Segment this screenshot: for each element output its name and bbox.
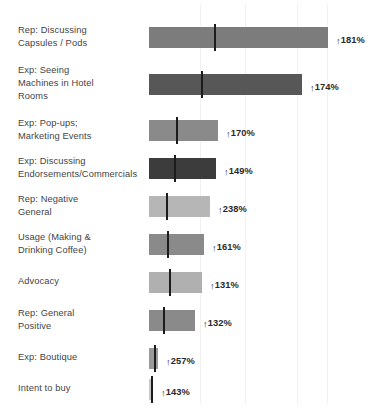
bar-group	[149, 234, 204, 255]
bar-marker	[174, 155, 176, 182]
bar-marker	[151, 376, 153, 403]
value-text: 181%	[341, 35, 365, 45]
up-arrow-icon: ↑	[161, 387, 166, 399]
chart-plot-area: Rep: Discussing Capsules / Pods↑181%Exp:…	[0, 0, 388, 410]
category-label: Exp: Discussing Endorsements/Commercials	[18, 155, 137, 181]
category-label: Rep: Discussing Capsules / Pods	[18, 24, 87, 50]
bar-marker	[167, 231, 169, 258]
bar-group	[149, 310, 195, 331]
value-label: ↑143%	[161, 386, 190, 398]
up-arrow-icon: ↑	[226, 128, 231, 140]
bar-group	[149, 272, 202, 293]
value-text: 170%	[231, 128, 255, 138]
value-text: 143%	[166, 387, 190, 397]
value-text: 257%	[171, 356, 195, 366]
value-text: 131%	[215, 280, 239, 290]
value-text: 174%	[315, 82, 339, 92]
bar	[149, 234, 204, 255]
value-label: ↑257%	[166, 355, 195, 367]
category-label: Intent to buy	[18, 382, 70, 395]
bar-group	[149, 158, 216, 179]
bar-marker	[176, 117, 178, 144]
value-label: ↑170%	[226, 127, 255, 139]
up-arrow-icon: ↑	[224, 166, 229, 178]
category-label: Rep: General Positive	[18, 307, 75, 333]
bar-marker	[163, 307, 165, 334]
bar-group	[149, 196, 210, 217]
value-text: 149%	[229, 166, 253, 176]
up-arrow-icon: ↑	[203, 318, 208, 330]
value-label: ↑174%	[310, 81, 339, 93]
value-text: 132%	[208, 318, 232, 328]
bar-marker	[201, 71, 203, 98]
bar-group	[149, 120, 218, 141]
bar-group	[149, 74, 302, 95]
up-arrow-icon: ↑	[212, 242, 217, 254]
bar-group	[149, 379, 153, 400]
category-label: Exp: Seeing Machines in Hotel Rooms	[18, 64, 94, 104]
up-arrow-icon: ↑	[218, 204, 223, 216]
bar-group	[149, 348, 158, 369]
value-label: ↑132%	[203, 317, 232, 329]
value-text: 238%	[223, 204, 247, 214]
bar	[149, 158, 216, 179]
bar	[149, 74, 302, 95]
bar	[149, 272, 202, 293]
value-label: ↑161%	[212, 241, 241, 253]
bar-marker	[166, 193, 168, 220]
category-label: Exp: Pop-ups; Marketing Events	[18, 117, 91, 143]
up-arrow-icon: ↑	[310, 82, 315, 94]
up-arrow-icon: ↑	[210, 280, 215, 292]
up-arrow-icon: ↑	[166, 356, 171, 368]
value-label: ↑149%	[224, 165, 253, 177]
category-label: Advocacy	[18, 275, 59, 288]
bar	[149, 196, 210, 217]
bar-marker	[169, 269, 171, 296]
bar	[149, 310, 195, 331]
category-label: Exp: Boutique	[18, 351, 77, 364]
bar	[149, 120, 218, 141]
category-label: Usage (Making & Drinking Coffee)	[18, 231, 91, 257]
horizontal-bar-chart: Rep: Discussing Capsules / Pods↑181%Exp:…	[0, 0, 388, 410]
value-label: ↑131%	[210, 279, 239, 291]
bar	[149, 27, 328, 48]
bar-marker	[154, 345, 156, 372]
bar-group	[149, 27, 328, 48]
value-label: ↑181%	[336, 34, 365, 46]
value-text: 161%	[217, 242, 241, 252]
bar-marker	[214, 24, 216, 51]
value-label: ↑238%	[218, 203, 247, 215]
category-label: Rep: Negative General	[18, 193, 78, 219]
up-arrow-icon: ↑	[336, 35, 341, 47]
